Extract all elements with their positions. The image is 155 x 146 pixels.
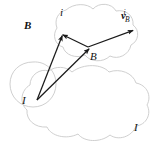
- label-frame-i-outer: I: [134, 122, 138, 133]
- label-frame-i-origin: I: [22, 95, 26, 106]
- vector-arrows: [37, 30, 133, 100]
- arrow-B-to-i: [63, 35, 88, 47]
- label-frame-b-mid: B: [90, 51, 97, 62]
- label-point-i: i: [60, 7, 63, 18]
- velocity-subscript: B: [125, 15, 130, 24]
- arrow-B-to-v: [88, 30, 133, 47]
- label-velocity-vector: viB: [121, 6, 130, 23]
- vector-diagram-figure: B i B I I viB: [0, 0, 155, 146]
- arrow-I-to-B: [37, 49, 89, 100]
- label-frame-b-bold: B: [24, 20, 31, 31]
- lower-large-cloud-blob: [22, 66, 149, 141]
